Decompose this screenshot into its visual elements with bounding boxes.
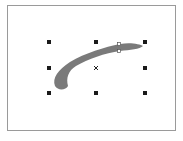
resize-handle-bottom-center[interactable] (94, 91, 98, 95)
brush-stroke[interactable] (54, 43, 143, 89)
resize-handle-bottom-left[interactable] (47, 91, 51, 95)
rotation-center-marker[interactable] (94, 66, 98, 70)
resize-handle-middle-right[interactable] (143, 66, 147, 70)
drawing-canvas[interactable] (0, 0, 183, 141)
drawing-stage (0, 0, 183, 141)
path-node-handle-icon[interactable] (118, 50, 121, 53)
path-node-icon[interactable] (118, 43, 121, 46)
resize-handle-top-right[interactable] (143, 40, 147, 44)
resize-handle-top-center[interactable] (94, 40, 98, 44)
resize-handle-bottom-right[interactable] (143, 91, 147, 95)
resize-handle-middle-left[interactable] (47, 66, 51, 70)
resize-handle-top-left[interactable] (47, 40, 51, 44)
